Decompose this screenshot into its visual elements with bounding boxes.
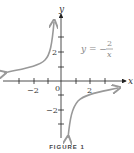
y-axis-label: y	[58, 4, 65, 14]
y-tick-label-neg2: −2	[46, 106, 58, 115]
hyperbola-chart: y x 0 −2 2 2 −2 y = − 2 x	[0, 0, 134, 153]
figure-caption: FIGURE 1	[0, 144, 134, 150]
x-tick-label-neg2: −2	[27, 86, 39, 95]
svg-text:y = −: y = −	[80, 44, 107, 54]
svg-text:x: x	[107, 50, 112, 59]
y-tick-label-pos2: 2	[52, 48, 57, 57]
equation-label: y = − 2 x	[80, 39, 113, 59]
x-axis-label: x	[128, 76, 133, 86]
svg-text:2: 2	[107, 39, 112, 48]
curve-right-branch	[68, 88, 118, 138]
x-tick-label-pos2: 2	[87, 86, 92, 95]
origin-label: 0	[55, 84, 60, 93]
curve-left-branch	[4, 22, 54, 73]
